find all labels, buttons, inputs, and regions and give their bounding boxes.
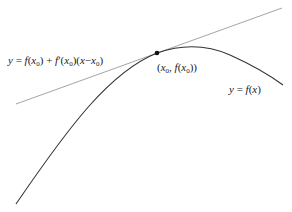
tangent-point-marker [155,51,160,56]
curve-f [16,47,283,204]
diagram-canvas [0,0,292,212]
tangent-equation-label: y = f(x0) + f′(x0)(x−x0) [8,54,103,70]
tangent-point-label: (x0, f(x0)) [157,61,197,77]
curve-label: y = f(x) [229,83,261,95]
